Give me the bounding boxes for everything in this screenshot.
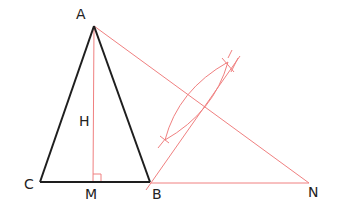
right-angle-mark bbox=[93, 174, 101, 182]
label-M: M bbox=[85, 186, 97, 202]
segment-AN bbox=[94, 26, 309, 183]
red-construction-lines bbox=[93, 26, 309, 190]
arc-tick-top bbox=[222, 50, 238, 72]
geometry-diagram: A C M B N H bbox=[0, 0, 338, 211]
side-AC bbox=[40, 26, 94, 182]
bisector-line bbox=[146, 56, 240, 190]
altitude-AM bbox=[93, 26, 94, 182]
label-H: H bbox=[79, 113, 90, 129]
label-B: B bbox=[152, 186, 162, 202]
arc-tick-bottom bbox=[158, 136, 169, 148]
label-N: N bbox=[308, 184, 318, 200]
label-C: C bbox=[24, 176, 34, 192]
triangle-ABC bbox=[40, 26, 150, 182]
side-AB bbox=[94, 26, 150, 182]
label-A: A bbox=[76, 6, 86, 22]
